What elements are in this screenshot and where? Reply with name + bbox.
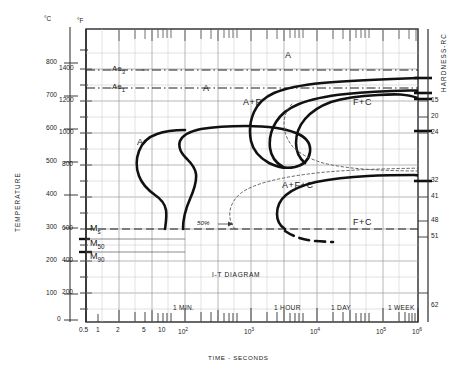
- m50-label: M50: [90, 239, 105, 250]
- celsius-tick-0: 0: [57, 316, 61, 323]
- phase-label-a-f-c: A+F+C: [282, 181, 314, 190]
- time-marker-1-min: 1 MIN.: [173, 305, 194, 312]
- phase-label-a-f: A+F: [243, 98, 262, 107]
- ms-label-sub: s: [98, 228, 101, 235]
- time-tick-10e4: 104: [310, 327, 320, 336]
- ae3-label: Ae3: [112, 65, 125, 75]
- fahrenheit-tick-400: 400: [62, 257, 73, 264]
- ae3-label-sub: 3: [122, 69, 125, 75]
- celsius-tick-700: 700: [46, 92, 57, 99]
- fifty-percent-label: 50%: [197, 220, 209, 226]
- phase-label-f-c-lower: F+C: [353, 218, 372, 227]
- celsius-tick-800: 800: [46, 59, 57, 66]
- fifty-percent-arrow: [218, 222, 233, 227]
- time-tick-10e3-exp: 3: [251, 326, 254, 332]
- time-tick-10e3: 103: [244, 327, 254, 336]
- hardness-tick-48: 48: [431, 217, 438, 224]
- curve-endpoint-stubs: [414, 78, 432, 181]
- fahrenheit-tick-1200: 1200: [59, 97, 74, 104]
- time-marker-1-day: 1 DAY: [331, 305, 351, 312]
- m90-label-text: M: [90, 251, 98, 261]
- time-tick-10e5: 105: [376, 327, 386, 336]
- hardness-tick-62: 62: [431, 302, 438, 309]
- time-tick-10e6: 106: [412, 327, 422, 336]
- hardness-tick-32: 32: [431, 177, 438, 184]
- fahrenheit-tick-600: 600: [62, 225, 73, 232]
- m50-label-text: M: [90, 238, 98, 248]
- ae3-label-text: Ae: [112, 64, 122, 73]
- time-marker-1-week: 1 WEEK: [388, 305, 415, 312]
- celsius-tick-300: 300: [46, 224, 57, 231]
- austenite-left-curve: [137, 130, 185, 229]
- martensite-lines: [86, 229, 418, 252]
- time-tick-1: 1: [96, 327, 100, 334]
- hardness-tick-51: 51: [431, 233, 438, 240]
- phase-label-austenite-top: A: [285, 51, 292, 60]
- lower-bainite-dashed-tail: [285, 231, 333, 242]
- m50-label-sub: 50: [98, 243, 105, 250]
- ms-label-text: M: [90, 223, 98, 233]
- hardness-tick-20: 20: [431, 113, 438, 120]
- plot-canvas: [0, 0, 451, 380]
- time-tick-10e4-exp: 4: [317, 326, 320, 332]
- m90-label-sub: 90: [98, 256, 105, 263]
- celsius-tick-600: 600: [46, 125, 57, 132]
- fahrenheit-tick-200: 200: [62, 289, 73, 296]
- time-tick-10e2-exp: 2: [185, 326, 188, 332]
- celsius-tick-100: 100: [46, 290, 57, 297]
- hardness-tick-15: 15: [431, 97, 438, 104]
- phase-label-austenite-left: A: [137, 138, 144, 147]
- ttt-diagram-figure: TEMPERATURE °C °F HARDNESS-RC TIME - SEC…: [0, 0, 451, 380]
- time-tick-0point5: 0.5: [79, 327, 88, 334]
- ms-label: Ms: [90, 224, 101, 235]
- time-tick-10e2: 102: [178, 327, 188, 336]
- time-tick-10: 10: [158, 327, 165, 334]
- time-tick-5: 5: [142, 327, 146, 334]
- time-tick-2: 2: [116, 327, 120, 334]
- fahrenheit-tick-1000: 1000: [59, 129, 74, 136]
- celsius-tick-500: 500: [46, 158, 57, 165]
- time-tick-10e6-exp: 6: [419, 326, 422, 332]
- time-tick-10e5-exp: 5: [383, 326, 386, 332]
- phase-label-f-c-upper: F+C: [353, 98, 372, 107]
- hardness-tick-24: 24: [431, 129, 438, 136]
- bottom-axis-log-ticks: [86, 308, 418, 322]
- hardness-tick-41: 41: [431, 193, 438, 200]
- fahrenheit-tick-800: 800: [62, 161, 73, 168]
- fifty-percent-dotted-lower: [230, 168, 421, 229]
- celsius-tick-400: 400: [46, 191, 57, 198]
- phase-label-austenite-mid: A: [203, 84, 210, 93]
- diagram-title: I-T DIAGRAM: [212, 272, 260, 279]
- fahrenheit-tick-1400: 1400: [59, 65, 74, 72]
- celsius-tick-200: 200: [46, 257, 57, 264]
- ae1-label: Ae1: [112, 83, 125, 93]
- top-axis-log-ticks: [119, 29, 416, 41]
- time-marker-1-hour: 1 HOUR: [274, 305, 301, 312]
- ae1-label-sub: 1: [122, 87, 125, 93]
- m90-label: M90: [90, 252, 105, 263]
- ae1-label-text: Ae: [112, 82, 122, 91]
